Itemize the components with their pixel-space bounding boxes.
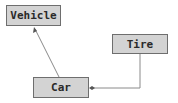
edge-tire-to-car — [91, 53, 140, 88]
edge-car-to-vehicle — [35, 29, 59, 77]
node-car[interactable]: Car — [33, 77, 89, 98]
node-label: Car — [51, 81, 71, 94]
diamond-icon — [89, 86, 95, 90]
node-tire[interactable]: Tire — [112, 34, 168, 54]
node-vehicle[interactable]: Vehicle — [6, 5, 61, 26]
node-label: Tire — [127, 38, 154, 51]
node-label: Vehicle — [10, 9, 56, 22]
